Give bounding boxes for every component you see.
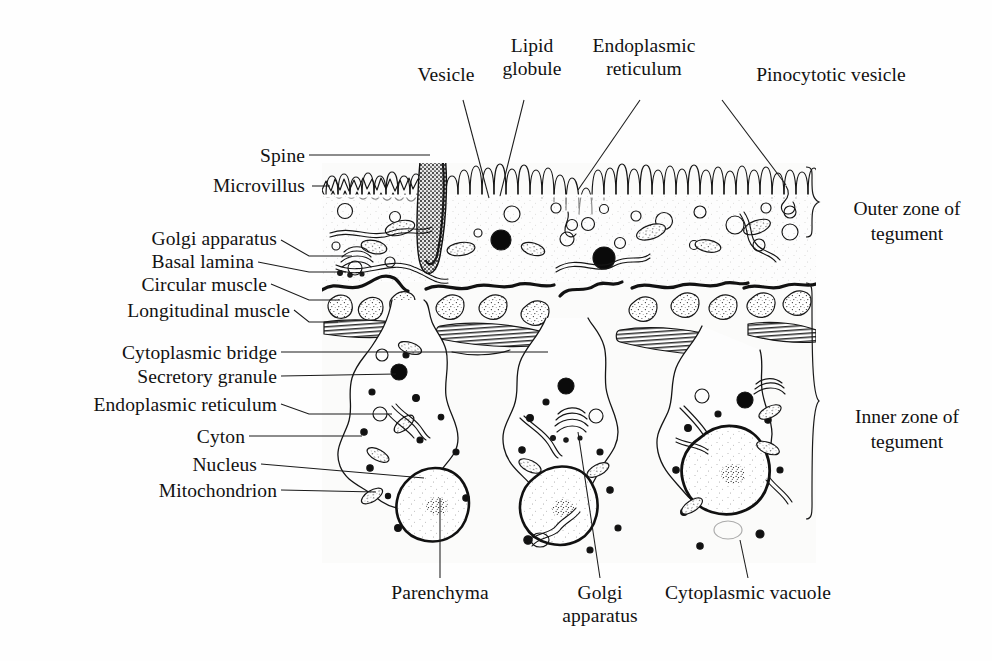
label-secretory-granule: Secretory granule — [49, 365, 277, 388]
label-circular-muscle: Circular muscle — [49, 273, 267, 296]
label-vesicle: Vesicle — [404, 63, 488, 86]
tegument-illustration — [0, 0, 992, 661]
label-microvillus: Microvillus — [109, 174, 305, 197]
label-inner-zone: Inner zone of tegument — [828, 404, 986, 455]
label-cytoplasmic-bridge: Cytoplasmic bridge — [49, 341, 277, 364]
label-cyton: Cyton — [129, 425, 245, 448]
secretory-granule-shape — [391, 364, 407, 380]
figure-canvas: Vesicle Lipid globule Endoplasmic reticu… — [0, 0, 992, 661]
label-parenchyma: Parenchyma — [350, 581, 530, 604]
label-spine: Spine — [109, 144, 305, 167]
label-longitudinal-muscle: Longitudinal muscle — [29, 299, 290, 322]
lipid-globule-shape — [491, 230, 511, 250]
label-lipid-globule: Lipid globule — [490, 34, 574, 80]
label-pinocytotic-vesicle: Pinocytotic vesicle — [726, 63, 936, 86]
label-mitochondrion: Mitochondrion — [89, 479, 277, 502]
label-outer-zone: Outer zone of tegument — [828, 196, 986, 247]
label-golgi-apparatus-upper: Golgi apparatus — [69, 227, 277, 250]
label-basal-lamina: Basal lamina — [69, 250, 254, 273]
label-nucleus: Nucleus — [129, 453, 257, 476]
label-endoplasmic-reticulum-top: Endoplasmic reticulum — [576, 34, 712, 80]
label-endoplasmic-reticulum-left: Endoplasmic reticulum — [17, 393, 277, 416]
label-cytoplasmic-vacuole: Cytoplasmic vacuole — [648, 581, 848, 604]
